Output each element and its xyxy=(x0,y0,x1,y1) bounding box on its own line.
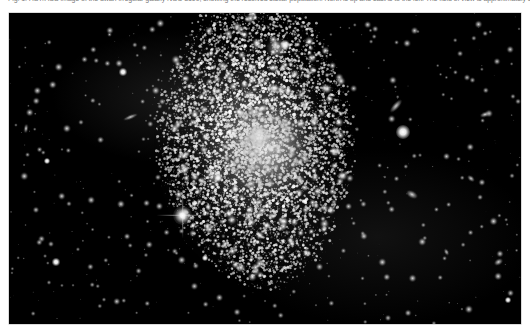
galaxy-core-glow xyxy=(225,111,313,195)
diffraction-spike-star xyxy=(182,215,183,216)
bright-star xyxy=(119,68,126,75)
figure-caption-clip: Fig. 1. HST/ACS image of the dwarf irreg… xyxy=(0,0,530,9)
star-glow xyxy=(173,206,192,225)
astronomy-photo xyxy=(9,13,521,324)
figure-caption: Fig. 1. HST/ACS image of the dwarf irreg… xyxy=(8,0,528,4)
bright-star xyxy=(505,297,511,303)
bright-star xyxy=(52,258,59,265)
galaxy-bright-knot xyxy=(246,125,272,147)
figure-root: Fig. 1. HST/ACS image of the dwarf irreg… xyxy=(0,0,530,334)
